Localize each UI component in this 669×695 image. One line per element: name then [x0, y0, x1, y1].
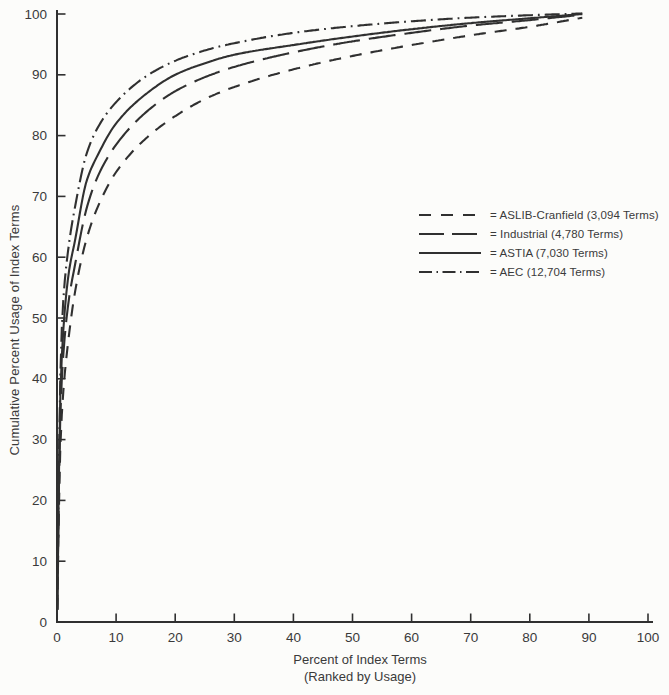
curve-aslib-cranfield	[57, 18, 582, 610]
x-tick-label: 50	[345, 630, 360, 645]
x-tick-label: 20	[168, 630, 183, 645]
short-dash-line-icon	[418, 211, 482, 219]
long-dash-line-icon	[418, 230, 482, 238]
y-tick-label: 10	[32, 554, 47, 569]
y-axis-title: Cumulative Percent Usage of Index Terms	[7, 204, 22, 455]
x-tick-label: 70	[463, 630, 478, 645]
dash-dot-line-icon	[418, 268, 482, 276]
x-tick-label: 40	[286, 630, 301, 645]
axis-lines	[57, 11, 652, 622]
y-tick-label: 80	[32, 128, 47, 143]
legend-label: = Industrial (4,780 Terms)	[490, 228, 623, 240]
x-tick-label: 60	[404, 630, 419, 645]
legend-label: = ASLIB-Cranfield (3,094 Terms)	[490, 209, 659, 221]
y-tick-label: 20	[32, 493, 47, 508]
curve-astia	[57, 14, 582, 610]
y-tick-label: 0	[39, 615, 47, 630]
y-tick-label: 50	[32, 311, 47, 326]
legend-item-industrial: = Industrial (4,780 Terms)	[418, 224, 659, 243]
x-axis-title-block: Percent of Index Terms (Ranked by Usage)	[293, 651, 426, 685]
y-tick-label: 70	[32, 189, 47, 204]
figure: 0102030405060708090100010203040506070809…	[0, 0, 669, 695]
y-tick-label: 90	[32, 67, 47, 82]
legend-item-aslib-cranfield: = ASLIB-Cranfield (3,094 Terms)	[418, 205, 659, 224]
y-tick-label: 30	[32, 432, 47, 447]
y-tick-label: 60	[32, 250, 47, 265]
y-tick-label: 40	[32, 371, 47, 386]
x-tick-label: 80	[522, 630, 537, 645]
legend-item-astia: = ASTIA (7,030 Terms)	[418, 243, 659, 262]
legend-label: = AEC (12,704 Terms)	[490, 266, 605, 278]
legend: = ASLIB-Cranfield (3,094 Terms) = Indust…	[418, 205, 659, 281]
y-tick-label: 100	[24, 7, 47, 22]
x-tick-label: 10	[109, 630, 124, 645]
curve-industrial	[57, 15, 582, 610]
line-chart: 0102030405060708090100010203040506070809…	[0, 0, 669, 695]
legend-item-aec: = AEC (12,704 Terms)	[418, 262, 659, 281]
legend-label: = ASTIA (7,030 Terms)	[490, 247, 608, 259]
x-tick-label: 90	[581, 630, 596, 645]
x-tick-label: 100	[637, 630, 660, 645]
x-axis-title: Percent of Index Terms	[293, 651, 426, 668]
x-tick-label: 0	[53, 630, 61, 645]
solid-line-icon	[418, 249, 482, 257]
x-axis-subtitle: (Ranked by Usage)	[293, 668, 426, 685]
x-tick-label: 30	[227, 630, 242, 645]
